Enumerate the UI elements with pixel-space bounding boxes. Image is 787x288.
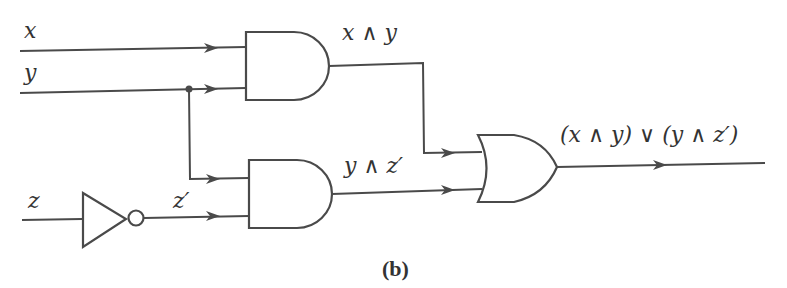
wire-z [22,219,82,220]
wire-and2-out [332,189,482,194]
label-z-prime: z′ [173,190,190,212]
logic-circuit-diagram: x y z z′ x ∧ y y ∧ z′ (x ∧ y) ∨ (y ∧ z′)… [0,0,787,288]
figure-caption: (b) [382,258,409,280]
and-gate-1 [246,32,329,100]
wire-y-branch [189,89,249,179]
not-gate [83,193,126,247]
label-and2-out: y ∧ z′ [344,155,403,177]
or-gate [478,135,557,202]
not-bubble [129,211,144,226]
wire-z-prime [144,216,249,218]
and-gate-2 [249,160,332,228]
label-and1-out: x ∧ y [342,22,397,44]
label-or-out: (x ∧ y) ∨ (y ∧ z′) [560,124,738,146]
wire-and1-out [329,63,482,153]
label-z: z [28,190,40,212]
label-x: x [24,20,36,42]
label-y: y [24,62,36,84]
